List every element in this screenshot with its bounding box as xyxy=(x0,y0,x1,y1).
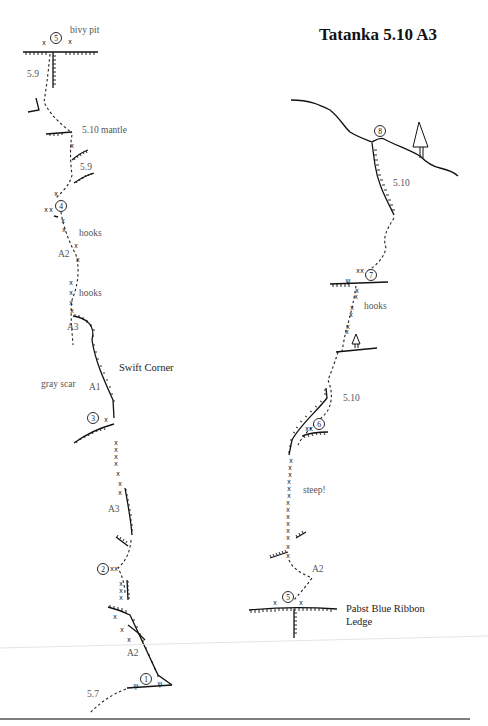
bolt-icon: x xyxy=(118,489,122,496)
label-aid-grade: A3 xyxy=(67,322,79,332)
right-route: 8 5.10 x x 7 ѱ x x x x x x hooks 5.10 xyxy=(249,100,458,638)
bolt-icon: x xyxy=(273,599,277,606)
bolt-icon: x xyxy=(287,478,291,485)
bolt-icon: x xyxy=(119,594,123,601)
bolt-icon: x xyxy=(127,636,131,643)
bolt-icon: x xyxy=(286,534,290,541)
bolt-icon: x xyxy=(350,304,354,311)
grass-icon: ѱ xyxy=(346,277,351,285)
bolt-icon: x xyxy=(69,289,73,296)
svg-text:6: 6 xyxy=(317,420,321,429)
bolt-icon: x xyxy=(114,453,118,460)
label-aid-grade: A2 xyxy=(58,249,70,259)
label-hooks: hooks xyxy=(79,288,102,298)
svg-text:3: 3 xyxy=(91,414,95,423)
bolt-icon: x xyxy=(74,242,78,249)
bolt-ladder: x x x x x x x x x x x x x x xyxy=(286,457,293,559)
label-gray-scar: gray scar xyxy=(41,379,76,389)
svg-text:1: 1 xyxy=(144,675,148,684)
label-pbr-ledge-line1: Pabst Blue Ribbon xyxy=(346,603,426,614)
belay-2-left: 2 xyxy=(98,564,109,575)
bolt-icon: x xyxy=(104,416,108,423)
label-grade: 5.7 xyxy=(87,689,99,699)
svg-text:5: 5 xyxy=(54,34,58,43)
belay-4-left: 4 xyxy=(56,201,67,212)
svg-text:2: 2 xyxy=(101,565,105,574)
ledge-7 xyxy=(330,282,388,284)
bolt-icon: x xyxy=(70,307,74,314)
mantle-ledge xyxy=(46,132,72,134)
bolt-icon: x xyxy=(286,506,290,513)
label-steep: steep! xyxy=(303,485,326,495)
belay-5-left: 5 xyxy=(51,33,62,44)
belay-7-right: 7 xyxy=(366,270,377,281)
belay-5-right: 5 xyxy=(283,592,294,603)
bolt-icon: x xyxy=(286,513,290,520)
bolt-icon: x xyxy=(42,39,46,46)
bolt-icon: x xyxy=(116,470,120,477)
bolt-icon: x xyxy=(49,206,53,213)
label-aid-grade: A2 xyxy=(312,564,324,574)
svg-text:8: 8 xyxy=(378,127,382,136)
rock-corner xyxy=(74,173,94,183)
lower-buttress xyxy=(108,607,172,685)
bolt-icon: x xyxy=(287,485,291,492)
bolt-icon: x xyxy=(354,293,358,300)
bolt-icon: x xyxy=(114,446,118,453)
label-grade: 5.10 xyxy=(393,178,410,188)
bolt-icon: x xyxy=(286,520,290,527)
grass-icon: ѱ xyxy=(134,682,139,690)
label-bivy-pit: bivy pit xyxy=(70,25,100,35)
label-aid-grade: A2 xyxy=(127,648,139,658)
bolt-icon: x xyxy=(120,626,124,633)
belay-8-right: 8 xyxy=(375,126,386,137)
bolt-icon: x xyxy=(349,311,353,318)
pbr-ledge xyxy=(249,608,337,610)
bolt-icon: x xyxy=(119,580,123,587)
bolt-icon: x xyxy=(70,142,74,149)
rock-feature xyxy=(28,98,39,112)
label-aid-grade: A1 xyxy=(89,382,101,392)
belay-6-right: 6 xyxy=(314,419,325,430)
bolt-icon: x xyxy=(345,328,349,335)
bolt-icon: x xyxy=(61,217,65,224)
bolt-icon: x xyxy=(360,267,364,274)
label-mantle: 5.10 mantle xyxy=(82,125,127,135)
bolt-icon: x xyxy=(288,471,292,478)
belay-1-left: 1 xyxy=(141,674,152,685)
belay-3-left: 3 xyxy=(88,413,99,424)
bolt-icon: x xyxy=(286,543,290,550)
swift-corner-rock xyxy=(73,316,114,418)
bolt-icon: x xyxy=(44,206,48,213)
route-line xyxy=(366,218,394,272)
label-grade: 5.10 xyxy=(343,393,360,403)
svg-text:4: 4 xyxy=(59,202,63,211)
tree-icon xyxy=(413,122,428,158)
bolt-icon: x xyxy=(119,587,123,594)
top-dihedral xyxy=(372,143,394,215)
bolt-icon: x xyxy=(114,439,118,446)
bolt-icon: x xyxy=(114,565,118,572)
bolt-icon: x xyxy=(76,256,80,263)
label-grade: 5.9 xyxy=(80,162,92,172)
bolt-icon: x xyxy=(299,599,303,606)
label-pbr-ledge-line2: Ledge xyxy=(346,616,373,627)
bolt-icon: x xyxy=(62,226,66,233)
label-hooks: hooks xyxy=(79,228,102,238)
bolt-icon: x xyxy=(288,464,292,471)
bolt-icon: x xyxy=(286,499,290,506)
ledge xyxy=(74,424,114,443)
bolt-icon: x xyxy=(287,492,291,499)
bolt-icon: x xyxy=(118,480,122,487)
route-title: Tatanka 5.10 A3 xyxy=(319,25,437,44)
left-route: x x 5 bivy pit 5.9 5.10 mantle 5.9 x x x… xyxy=(23,25,174,713)
route-line xyxy=(44,54,72,133)
bolt-icon: x xyxy=(114,460,118,467)
grass-icon: ѱ xyxy=(158,680,163,688)
bolt-icon: x xyxy=(286,527,290,534)
topo-diagram: Tatanka 5.10 A3 x x 5 bivy pit 5.9 5.10 … xyxy=(0,0,488,726)
label-swift-corner: Swift Corner xyxy=(119,362,174,373)
bolt-icon: x xyxy=(54,190,58,197)
label-aid-grade: A3 xyxy=(108,504,120,514)
svg-text:5: 5 xyxy=(286,593,290,602)
